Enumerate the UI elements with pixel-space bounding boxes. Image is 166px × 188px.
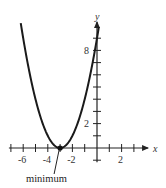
minimum-point [58,145,63,150]
parabola-curve [21,23,99,148]
svg-text:-2: -2 [67,154,75,165]
svg-text:-6: -6 [18,154,26,165]
x-axis-label: x [152,143,158,154]
x-tick-labels: -6-4-22 [18,154,123,165]
svg-text:8: 8 [84,45,89,56]
svg-text:2: 2 [84,118,89,129]
svg-text:2: 2 [118,154,123,165]
minimum-label: minimum [26,173,67,184]
svg-text:-4: -4 [43,154,51,165]
y-axis-label: y [94,11,100,22]
minimum-pointer-line [54,150,59,174]
parabola-chart: -6-4-22 28 minimum x y [0,0,166,188]
